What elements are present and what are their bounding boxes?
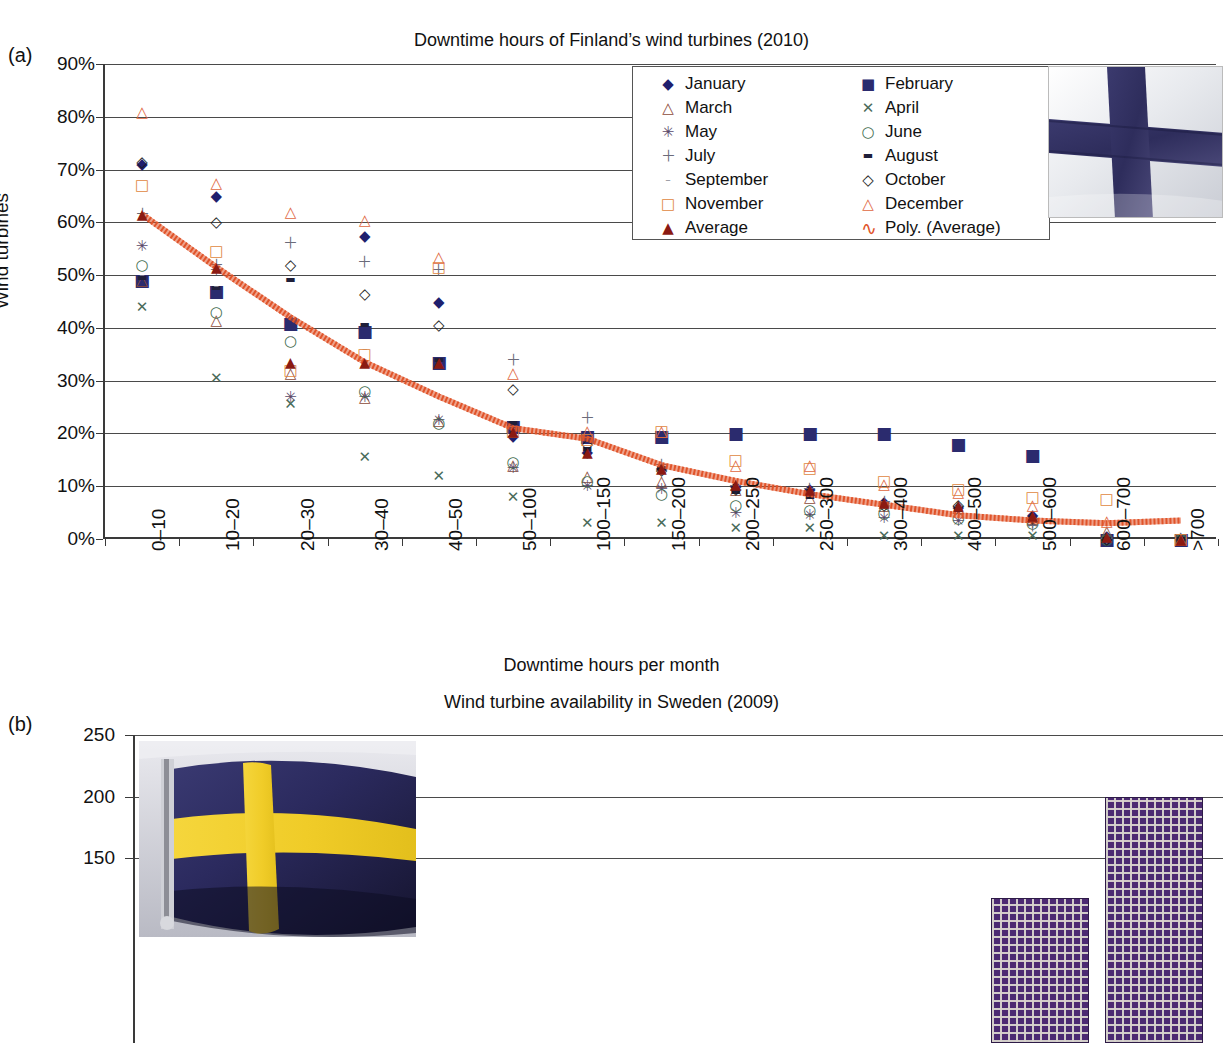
legend-december-label: December	[885, 192, 963, 216]
x-tick-mark	[995, 539, 996, 546]
legend-average-label: Average	[685, 216, 748, 240]
y-tick-label-10%: 10%	[5, 475, 95, 497]
data-point-average: ▲	[579, 444, 595, 460]
y-tick-mark-0%	[96, 539, 103, 540]
gridline-250	[135, 735, 1223, 736]
x-tick-mark	[847, 539, 848, 546]
legend-july[interactable]: ＋July	[651, 144, 768, 168]
y-tick-mark-40%	[96, 328, 103, 329]
legend-november-label: November	[685, 192, 763, 216]
legend-january[interactable]: ◆January	[651, 72, 768, 96]
legend-april[interactable]: ✕April	[851, 96, 1001, 120]
data-point-average: ▲	[654, 460, 670, 476]
legend-october-label: October	[885, 168, 945, 192]
x-tick-label-150–200: 150–200	[668, 477, 690, 551]
legend-january-symbol-icon: ◆	[651, 72, 685, 96]
legend-august[interactable]: ▬August	[851, 144, 1001, 168]
y-tick-mark-60%	[96, 222, 103, 223]
panel-a-x-axis-title: Downtime hours per month	[0, 655, 1223, 676]
y-tick-mark-90%	[96, 64, 103, 65]
legend-september[interactable]: –September	[651, 168, 768, 192]
y-tick-label-200: 200	[15, 786, 115, 808]
legend-december[interactable]: △December	[851, 192, 1001, 216]
y-tick-label-50%: 50%	[5, 264, 95, 286]
data-point-average: ▲	[208, 259, 224, 275]
legend-march-symbol-icon: △	[651, 96, 685, 120]
bar-second	[991, 898, 1089, 1043]
legend-august-symbol-icon: ▬	[851, 144, 885, 168]
sweden-flag-icon	[139, 741, 416, 937]
y-tick-mark-20%	[96, 433, 103, 434]
data-point-average: ▲	[134, 206, 150, 222]
x-tick-label-40–50: 40–50	[445, 498, 467, 551]
legend-poly-average-symbol-icon: ∿	[851, 216, 885, 240]
y-tick-mark-80%	[96, 117, 103, 118]
panel-a-legend: ◆January△March✳May＋July–September□Novemb…	[632, 66, 1050, 240]
y-tick-label-80%: 80%	[5, 106, 95, 128]
y-tick-mark-250	[125, 735, 133, 736]
legend-february[interactable]: ■February	[851, 72, 1001, 96]
x-tick-mark	[550, 539, 551, 546]
legend-may-label: May	[685, 120, 717, 144]
legend-october-symbol-icon: ◇	[851, 168, 885, 192]
legend-august-label: August	[885, 144, 938, 168]
x-tick-mark	[179, 539, 180, 546]
x-tick-label->700: >700	[1187, 508, 1209, 551]
legend-may-symbol-icon: ✳	[651, 120, 685, 144]
legend-average-symbol-icon: ▲	[651, 216, 685, 240]
data-point-average: ▲	[876, 494, 892, 510]
legend-poly-average-label: Poly. (Average)	[885, 216, 1001, 240]
x-tick-label-400–500: 400–500	[964, 477, 986, 551]
y-tick-label-90%: 90%	[5, 53, 95, 75]
x-tick-label-50–100: 50–100	[519, 488, 541, 551]
x-tick-mark	[699, 539, 700, 546]
legend-poly-average[interactable]: ∿Poly. (Average)	[851, 216, 1001, 240]
x-tick-mark	[253, 539, 254, 546]
y-tick-label-20%: 20%	[5, 422, 95, 444]
x-tick-label-30–40: 30–40	[371, 498, 393, 551]
sweden-flag-svg	[139, 741, 416, 937]
y-tick-mark-50%	[96, 275, 103, 276]
data-point-average: ▲	[431, 354, 447, 370]
panel-a-finland-scatter: (a) Downtime hours of Finland’s wind tur…	[0, 0, 1223, 680]
y-tick-label-0%: 0%	[5, 528, 95, 550]
panel-a-y-axis-title: Wind turbines	[0, 193, 13, 309]
data-point-average: ▲	[802, 481, 818, 497]
legend-june[interactable]: ○June	[851, 120, 1001, 144]
x-tick-mark	[402, 539, 403, 546]
y-tick-mark-10%	[96, 486, 103, 487]
x-tick-label-10–20: 10–20	[222, 498, 244, 551]
legend-november[interactable]: □November	[651, 192, 768, 216]
legend-average[interactable]: ▲Average	[651, 216, 768, 240]
data-point-average: ▲	[1099, 528, 1115, 544]
x-tick-mark	[624, 539, 625, 546]
x-tick-mark	[476, 539, 477, 546]
x-tick-mark	[105, 539, 106, 546]
legend-january-label: January	[685, 72, 745, 96]
legend-september-symbol-icon: –	[651, 168, 685, 192]
legend-february-label: February	[885, 72, 953, 96]
x-tick-label-250–300: 250–300	[816, 477, 838, 551]
x-tick-label-200–250: 200–250	[742, 477, 764, 551]
legend-february-symbol-icon: ■	[851, 72, 885, 96]
x-tick-mark	[328, 539, 329, 546]
finland-flag-icon	[1048, 66, 1223, 218]
legend-march-label: March	[685, 96, 732, 120]
legend-october[interactable]: ◇October	[851, 168, 1001, 192]
legend-may[interactable]: ✳May	[651, 120, 768, 144]
x-tick-mark	[1144, 539, 1145, 546]
y-tick-label-30%: 30%	[5, 370, 95, 392]
x-tick-label-500–600: 500–600	[1039, 477, 1061, 551]
legend-july-symbol-icon: ＋	[651, 144, 685, 168]
data-point-average: ▲	[728, 476, 744, 492]
data-point-average: ▲	[1173, 531, 1189, 547]
x-tick-mark	[921, 539, 922, 546]
legend-april-label: April	[885, 96, 919, 120]
legend-march[interactable]: △March	[651, 96, 768, 120]
finland-flag-svg	[1049, 67, 1223, 218]
y-tick-mark-70%	[96, 170, 103, 171]
y-tick-label-150: 150	[15, 847, 115, 869]
y-tick-label-250: 250	[15, 724, 115, 746]
data-point-average: ▲	[950, 497, 966, 513]
data-point-average: ▲	[505, 423, 521, 439]
